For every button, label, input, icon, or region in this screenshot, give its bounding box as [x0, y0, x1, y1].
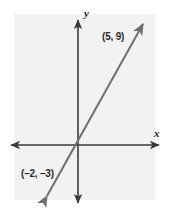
graph-canvas [0, 0, 170, 220]
line-segment-with-arrows [47, 24, 143, 196]
x-axis-label: x [154, 128, 160, 139]
point-label-5-9: (5, 9) [102, 32, 124, 42]
point-label-neg2-neg3: (–2, –3) [21, 169, 54, 179]
plotted-line [47, 24, 143, 196]
y-axis-label: y [84, 8, 89, 19]
coordinate-plane-figure: y x (5, 9) (–2, –3) [0, 0, 170, 220]
